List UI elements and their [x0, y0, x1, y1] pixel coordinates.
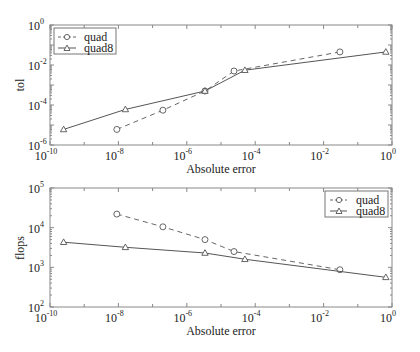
x-tick-label: 10-8 [105, 147, 124, 163]
top-x-axis-label: Absolute error [186, 162, 256, 176]
x-tick-label: 10-4 [242, 309, 261, 325]
x-tick-label: 10-2 [310, 147, 329, 163]
x-tick-label: 100 [380, 147, 396, 163]
series-quad8-line [64, 52, 386, 130]
x-tick-label: 10-8 [105, 309, 124, 325]
circle-marker-icon [114, 126, 120, 132]
y-tick-label: 100 [28, 17, 44, 33]
bottom-plot-series [60, 211, 389, 280]
top-plot-series [60, 49, 389, 133]
circle-marker-icon [336, 197, 341, 202]
circle-marker-icon [64, 34, 69, 39]
bottom-x-axis-label: Absolute error [186, 324, 256, 338]
series-quad-line [117, 214, 340, 270]
bottom-plot-flops: 10-1010-810-610-410-2100105104103102 flo… [13, 180, 396, 338]
circle-marker-icon [160, 224, 166, 230]
x-tick-label: 10-6 [173, 309, 192, 325]
circle-marker-icon [160, 107, 166, 113]
circle-marker-icon [114, 211, 120, 217]
circle-marker-icon [231, 68, 237, 74]
series-quad-line [117, 52, 340, 130]
y-tick-label: 10-4 [28, 97, 47, 113]
circle-marker-icon [337, 49, 343, 55]
triangle-marker-icon [60, 239, 66, 245]
y-tick-label: 10-2 [28, 57, 47, 73]
legend-quad8-label: quad8 [356, 204, 385, 218]
x-tick-label: 10-4 [242, 147, 261, 163]
y-tick-label: 105 [28, 180, 44, 196]
x-tick-label: 10-2 [310, 309, 329, 325]
top-legend: quad quad8 [54, 28, 116, 55]
circle-marker-icon [231, 249, 237, 255]
y-tick-label: 104 [28, 220, 44, 236]
y-tick-label: 103 [28, 259, 44, 275]
triangle-marker-icon [383, 49, 389, 55]
x-tick-label: 100 [380, 309, 396, 325]
legend-quad8-label: quad8 [84, 41, 113, 55]
x-tick-label: 10-6 [173, 147, 192, 163]
top-y-axis-label: tol [13, 78, 27, 91]
bottom-y-axis-label: flops [13, 236, 27, 260]
bottom-legend: quad quad8 [325, 191, 388, 218]
top-plot-tol: 10-1010-810-610-410-210010010-210-410-6 … [13, 17, 396, 176]
circle-marker-icon [202, 237, 208, 243]
figure: 10-1010-810-610-410-210010010-210-410-6 … [0, 0, 420, 352]
